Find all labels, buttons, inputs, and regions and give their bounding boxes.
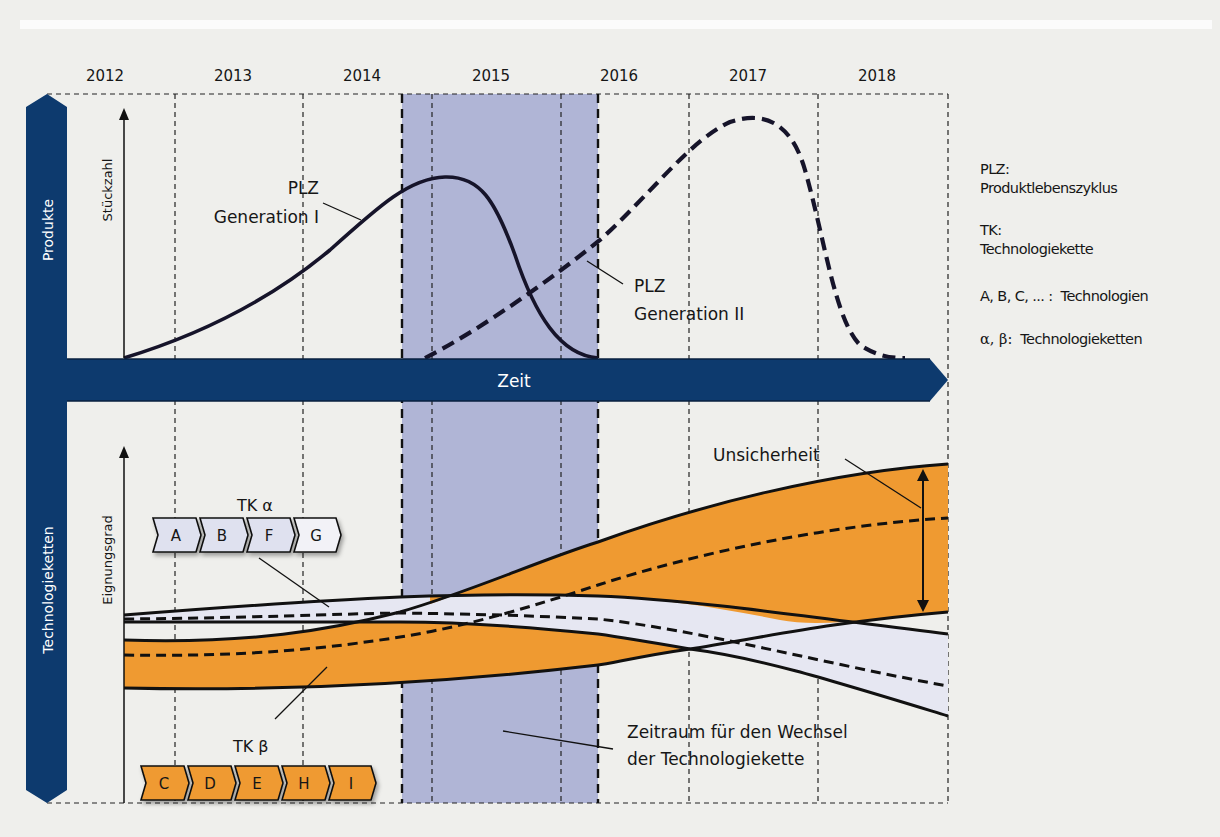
tk-beta-label: TK β <box>232 737 269 756</box>
year-label: 2014 <box>343 67 381 85</box>
legend-item: α, β: Technologieketten <box>980 330 1210 349</box>
plz-gen1-label: Generation I <box>214 207 319 227</box>
year-label: 2018 <box>858 67 896 85</box>
legend: PLZ: Produktlebenszyklus TK: Technologie… <box>980 160 1210 368</box>
legend-key: PLZ: <box>980 160 1210 179</box>
legend-item: A, B, C, ... : Technologien <box>980 287 1210 306</box>
legend-value: Produktlebenszyklus <box>980 179 1210 198</box>
legend-item: TK: Technologiekette <box>980 221 1210 259</box>
legend-item: PLZ: Produktlebenszyklus <box>980 160 1210 198</box>
chevron-label: H <box>298 775 309 793</box>
suitability-axis-label: Eignungsgrad <box>100 515 115 605</box>
chevron-label: B <box>217 527 227 545</box>
year-label: 2017 <box>729 67 767 85</box>
chevron-label: A <box>171 527 182 545</box>
quantity-axis-label: Stückzahl <box>100 159 115 222</box>
year-label: 2015 <box>472 67 510 85</box>
quantity-axis-arrow-icon <box>119 108 129 120</box>
suitability-axis-arrow-icon <box>119 446 129 458</box>
section-label-products: Produkte <box>40 199 56 261</box>
legend-value: Technologien <box>1061 288 1149 304</box>
plz-gen1-leader <box>323 203 361 220</box>
legend-value: Technologieketten <box>1020 331 1142 347</box>
section-label-technology-chains: Technologieketten <box>40 526 56 654</box>
time-axis-label: Zeit <box>497 371 531 391</box>
chevron-label: I <box>349 775 353 793</box>
legend-value: Technologiekette <box>980 240 1210 259</box>
plz-gen2-label: PLZ <box>634 276 665 296</box>
chevron-label: E <box>252 775 261 793</box>
chevron-label: G <box>310 527 322 545</box>
plz-gen2-label: Generation II <box>634 304 744 324</box>
year-labels: 2012 2013 2014 2015 2016 2017 2018 <box>86 67 896 85</box>
legend-key: A, B, C, ... : <box>980 288 1053 304</box>
year-label: 2012 <box>86 67 124 85</box>
year-label: 2013 <box>214 67 252 85</box>
chevron-label: C <box>159 775 169 793</box>
switch-window-label: der Technologiekette <box>627 749 804 769</box>
uncertainty-label: Unsicherheit <box>713 445 820 465</box>
technology-chain-diagram: 2012 2013 2014 2015 2016 2017 2018 Zeit … <box>0 0 1220 837</box>
tk-alpha-leader <box>259 558 329 607</box>
plz-gen1-label: PLZ <box>288 178 319 198</box>
legend-key: α, β: <box>980 331 1012 347</box>
legend-key: TK: <box>980 221 1210 240</box>
year-label: 2016 <box>600 67 638 85</box>
chevron-label: F <box>265 527 274 545</box>
tk-alpha-label: TK α <box>236 496 273 515</box>
chevron-label: D <box>204 775 216 793</box>
switch-window-label: Zeitraum für den Wechsel <box>627 722 848 742</box>
